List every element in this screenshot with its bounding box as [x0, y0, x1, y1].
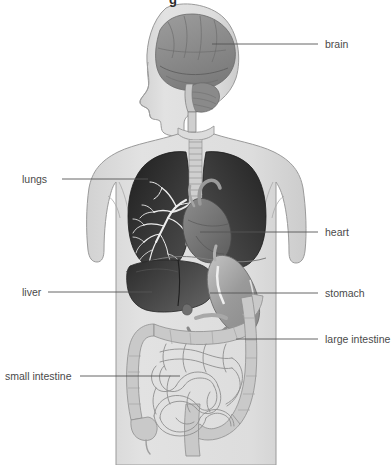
- title-fragment: g: [169, 0, 177, 7]
- label-stomach: stomach: [325, 287, 365, 299]
- liver-organ: [127, 260, 215, 312]
- spinal-cord-upper: [188, 112, 196, 132]
- diagram-canvas: brain lungs heart liver stomach large in…: [0, 0, 391, 465]
- gallbladder: [182, 304, 192, 315]
- label-lungs: lungs: [22, 173, 47, 185]
- label-liver: liver: [22, 286, 42, 298]
- label-heart: heart: [325, 226, 349, 238]
- label-brain: brain: [325, 38, 349, 50]
- rectum: [185, 404, 201, 456]
- label-large-intestine: large intestine: [325, 333, 391, 345]
- esophagus: [214, 246, 216, 260]
- organ-diagram-figure: brain lungs heart liver stomach large in…: [0, 0, 391, 465]
- label-small-intestine: small intestine: [5, 370, 72, 382]
